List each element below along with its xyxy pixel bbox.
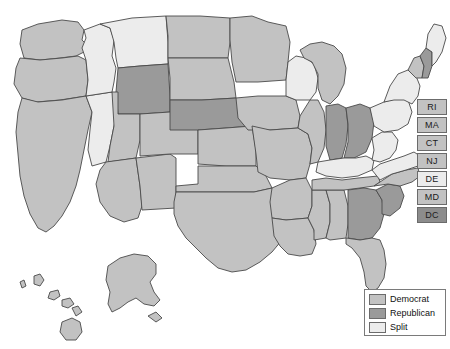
abbr-label-DC: DC	[425, 211, 438, 220]
legend-label-democrat: Democrat	[390, 295, 429, 304]
state-MN[interactable]	[230, 16, 290, 82]
state-FL[interactable]	[346, 238, 386, 292]
map-legend: Democrat Republican Split	[364, 289, 446, 336]
abbr-label-CT: CT	[426, 139, 438, 148]
abbr-box-NJ[interactable]: NJ	[417, 153, 447, 169]
state-ND[interactable]	[166, 16, 230, 58]
abbr-box-CT[interactable]: CT	[417, 135, 447, 151]
state-HI[interactable]	[20, 274, 82, 340]
state-CA[interactable]	[16, 96, 92, 232]
legend-item-republican: Republican	[369, 307, 441, 320]
abbr-box-MA[interactable]: MA	[417, 117, 447, 133]
legend-swatch-republican	[369, 308, 386, 319]
state-MO[interactable]	[252, 126, 312, 180]
state-SD[interactable]	[168, 58, 236, 100]
abbr-label-DE: DE	[426, 175, 439, 184]
state-PA[interactable]	[370, 98, 412, 132]
abbr-label-RI: RI	[427, 103, 436, 112]
state-GA[interactable]	[348, 188, 384, 240]
abbr-box-MD[interactable]: MD	[417, 189, 447, 205]
legend-item-split: Split	[369, 321, 441, 334]
abbr-label-NJ: NJ	[426, 157, 437, 166]
state-OH[interactable]	[344, 104, 374, 158]
state-TX[interactable]	[174, 188, 286, 272]
legend-swatch-democrat	[369, 294, 386, 305]
abbr-box-DE[interactable]: DE	[417, 171, 447, 187]
state-WV[interactable]	[372, 132, 398, 162]
abbr-box-DC[interactable]: DC	[417, 207, 447, 223]
abbr-label-MA: MA	[425, 121, 439, 130]
legend-label-republican: Republican	[390, 309, 435, 318]
legend-label-split: Split	[390, 323, 408, 332]
state-LA[interactable]	[272, 218, 316, 256]
legend-swatch-split	[369, 322, 386, 333]
state-WY[interactable]	[116, 64, 170, 114]
state-IA[interactable]	[236, 96, 300, 130]
state-abbreviation-callouts: RI MA CT NJ DE MD DC	[417, 99, 447, 223]
state-IN[interactable]	[326, 104, 348, 160]
state-NM[interactable]	[136, 154, 176, 210]
state-KS[interactable]	[198, 126, 256, 166]
us-map-figure: RI MA CT NJ DE MD DC Democrat Republican…	[0, 0, 450, 349]
state-AK[interactable]	[106, 254, 162, 322]
abbr-label-MD: MD	[425, 193, 439, 202]
legend-item-democrat: Democrat	[369, 293, 441, 306]
abbr-box-RI[interactable]: RI	[417, 99, 447, 115]
state-WA[interactable]	[20, 20, 86, 60]
state-AR[interactable]	[270, 178, 312, 220]
state-ID[interactable]	[82, 24, 116, 96]
state-KY[interactable]	[316, 156, 374, 178]
state-AZ[interactable]	[96, 158, 142, 222]
state-OR[interactable]	[14, 56, 88, 102]
state-TN[interactable]	[312, 176, 380, 190]
